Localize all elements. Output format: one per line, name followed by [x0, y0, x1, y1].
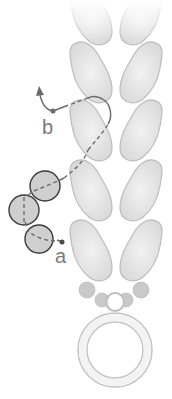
- jump-ring: [78, 313, 152, 387]
- leaf-bead: [70, 100, 112, 161]
- label-a: a: [55, 245, 67, 267]
- thread-point-a-dot: [60, 240, 65, 245]
- leaf-bead: [70, 42, 112, 103]
- top-fade-overlay: [0, 0, 172, 40]
- small-bead: [133, 282, 149, 298]
- leaf-bead: [70, 220, 112, 281]
- thread-point-b-dot: [51, 109, 56, 114]
- leaf-beads-left-column: [70, 0, 112, 281]
- leaf-bead: [70, 160, 112, 221]
- arrow-head-icon: [36, 86, 44, 96]
- connector-loop: [106, 293, 124, 311]
- small-bead: [79, 282, 95, 298]
- leaf-bead: [120, 160, 162, 221]
- leaf-bead: [120, 42, 162, 103]
- leaf-beads-right-column: [120, 0, 162, 281]
- beading-diagram: b a: [0, 0, 172, 399]
- leaf-bead: [120, 220, 162, 281]
- round-bead: [30, 171, 60, 201]
- label-b: b: [42, 116, 53, 138]
- leaf-bead: [120, 100, 162, 161]
- round-bead: [25, 225, 53, 253]
